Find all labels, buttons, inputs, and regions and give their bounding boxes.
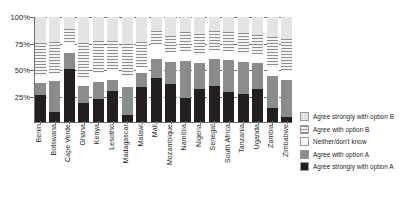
bar-segment-n [180,51,191,62]
y-axis-tick [30,70,34,71]
bar-segment-sa [267,108,278,122]
legend-swatch-n [300,137,309,146]
bar-segment-sb [93,17,104,41]
bar-segment-a [49,81,60,111]
x-axis-label: South Africa [224,124,235,163]
bar-mozambique[interactable] [165,17,176,122]
bar-segment-n [267,67,278,75]
bar-segment-sa [165,84,176,122]
y-axis-tick [30,44,34,45]
bar-segment-a [209,59,220,86]
bar-segment-a [78,86,89,103]
bar-cape-verde[interactable] [64,17,75,122]
bar-zimbabwe[interactable] [281,17,292,122]
bar-segment-n [194,55,205,63]
legend-item-sa[interactable]: Agree strongly with option A [300,162,408,171]
x-axis-label: Mozambique [166,124,177,165]
bar-segment-a [35,83,46,95]
bar-tanzania[interactable] [238,17,249,122]
bar-segment-sa [180,98,191,122]
legend-swatch-b [300,125,309,134]
x-axis-label: Zimbabwe [282,124,293,157]
bar-segment-sa [35,95,46,122]
bar-segment-sb [209,17,220,31]
bar-botswana[interactable] [49,17,60,122]
bar-segment-n [49,73,60,81]
bar-segment-a [64,53,75,70]
y-axis-tick [30,97,34,98]
bar-segment-b [107,41,118,69]
bar-segment-a [136,73,147,88]
x-axis-label: Lesotho [108,124,119,150]
bar-segment-sb [194,17,205,34]
bar-segment-b [122,44,133,76]
bar-segment-sa [151,78,162,122]
bar-segment-a [107,80,118,91]
bar-segment-sa [252,89,263,122]
bar-segment-n [64,43,75,52]
legend-swatch-sa [300,162,309,171]
bar-segment-a [180,61,191,98]
bar-segment-a [93,82,104,99]
y-axis: 25%50%75%100% [0,17,30,123]
bar-segment-b [93,41,104,73]
bar-segment-n [165,52,176,63]
bar-segment-n [151,45,162,59]
bar-segment-b [267,37,278,67]
bar-segment-b [165,36,176,52]
bar-segment-sa [223,92,234,122]
bar-segment-a [281,80,292,117]
bar-segment-b [136,42,147,67]
legend-label: Agree with option B [313,126,369,133]
x-axis-label: Uganda [253,124,264,149]
bar-segment-sa [107,91,118,123]
x-axis-label: Cape Verde [64,124,75,162]
bar-segment-b [194,34,205,55]
bar-senegal[interactable] [209,17,220,122]
legend-item-sb[interactable]: Agree strongly with option B [300,112,408,121]
chart-legend: Agree strongly with option BAgree with o… [300,112,408,175]
x-axis-label: Kenya [93,124,104,144]
bar-segment-b [238,33,249,54]
bar-segment-sa [78,103,89,122]
bar-segment-n [78,79,89,86]
bar-lesotho[interactable] [107,17,118,122]
bar-segment-b [35,43,46,76]
bar-segment-b [151,31,162,46]
bar-madagascar[interactable] [122,17,133,122]
y-axis-label: 25% [15,92,30,101]
bar-malawi[interactable] [136,17,147,122]
bar-nigeria[interactable] [194,17,205,122]
legend-label: Agree strongly with option B [313,113,394,120]
bar-segment-sa [209,86,220,122]
bar-segment-sb [180,17,191,32]
bar-kenya[interactable] [93,17,104,122]
bar-segment-n [107,70,118,81]
bar-zambia[interactable] [267,17,278,122]
legend-item-b[interactable]: Agree with option B [300,125,408,134]
bar-benin[interactable] [35,17,46,122]
y-axis-label: 75% [15,39,30,48]
bar-segment-sb [78,17,89,43]
bar-segment-sb [267,17,278,37]
bar-segment-b [281,39,292,71]
bar-ghana[interactable] [78,17,89,122]
legend-item-n[interactable]: Neither/don't know [300,137,408,146]
bar-segment-sb [165,17,176,36]
bar-group [35,17,292,122]
bar-segment-b [49,42,60,72]
bar-segment-a [165,62,176,84]
bar-segment-a [252,63,263,89]
bar-uganda[interactable] [252,17,263,122]
bar-segment-a [238,62,249,94]
legend-item-a[interactable]: Agree with option A [300,150,408,159]
bar-south-africa[interactable] [223,17,234,122]
bar-segment-b [64,29,75,44]
x-axis-label: Madagascar [122,124,133,164]
bar-mali[interactable] [151,17,162,122]
bar-namibia[interactable] [180,17,191,122]
x-axis-label: Mali [151,124,162,137]
bar-segment-n [252,54,263,63]
bar-segment-sb [107,17,118,41]
bar-segment-n [238,54,249,62]
